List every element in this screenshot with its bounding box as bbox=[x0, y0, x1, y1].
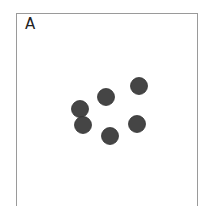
dot bbox=[75, 117, 92, 134]
dot bbox=[98, 89, 115, 106]
dot bbox=[131, 78, 148, 95]
dot bbox=[102, 128, 119, 145]
dot bbox=[72, 101, 89, 118]
dot-cluster bbox=[0, 0, 210, 206]
dot bbox=[129, 116, 146, 133]
